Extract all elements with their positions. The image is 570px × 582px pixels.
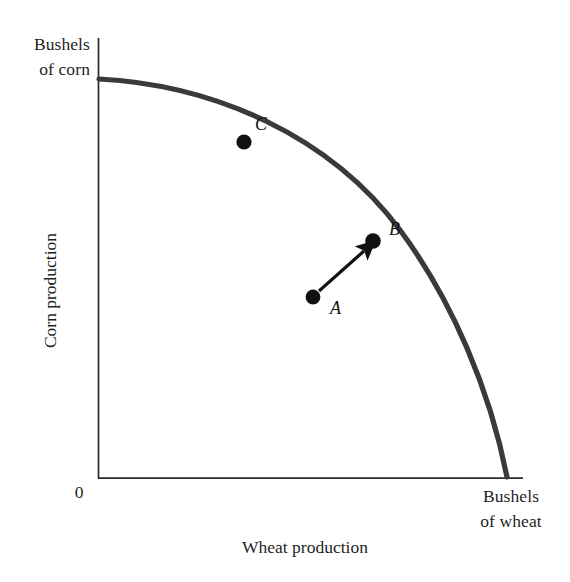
- y-axis-unit-label: Bushels of corn: [0, 32, 90, 82]
- point-c-label: C: [255, 114, 267, 135]
- arrow-a-to-b: [319, 251, 364, 291]
- ppf-chart: Bushels of corn Corn production Bushels …: [0, 0, 570, 582]
- y-axis-title: Corn production: [40, 201, 61, 381]
- origin-label: 0: [66, 482, 92, 503]
- ppf-curve: [99, 79, 507, 477]
- point-b-dot: [365, 233, 381, 249]
- point-c-dot: [236, 134, 251, 149]
- x-axis-title: Wheat production: [185, 537, 425, 558]
- point-b-label: B: [389, 219, 400, 240]
- point-a-label: A: [330, 298, 341, 319]
- x-axis-unit-label: Bushels of wheat: [452, 484, 570, 534]
- point-a-dot: [306, 290, 321, 305]
